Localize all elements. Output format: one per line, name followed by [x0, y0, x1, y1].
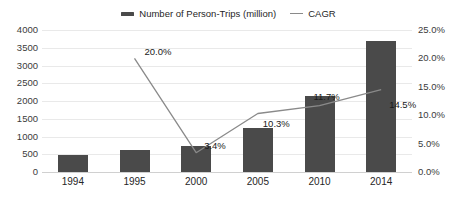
legend-item-person-trips: Number of Person-Trips (million)	[121, 9, 276, 19]
right-axis-tick: 25.0%	[418, 25, 445, 35]
right-axis-tick: 15.0%	[418, 82, 445, 92]
chart-legend: Number of Person-Trips (million) CAGR	[0, 9, 457, 19]
left-axis-tick: 2000	[17, 96, 38, 106]
cagr-line-series	[42, 30, 412, 172]
right-axis-tick: 20.0%	[418, 54, 445, 64]
left-axis-tick: 4000	[17, 25, 38, 35]
combo-chart: Number of Person-Trips (million) CAGR 05…	[0, 0, 457, 204]
category-tick: 2014	[370, 177, 392, 187]
cagr-point-label: 3.4%	[204, 141, 226, 151]
legend-label-cagr: CAGR	[308, 9, 335, 19]
cagr-polyline	[135, 58, 382, 152]
gridline	[42, 172, 412, 173]
right-axis-tick: 5.0%	[418, 139, 440, 149]
left-axis-tick: 2500	[17, 79, 38, 89]
left-axis-tick: 1000	[17, 132, 38, 142]
category-tick: 1994	[62, 177, 84, 187]
category-tick: 1995	[123, 177, 145, 187]
line-series-swatch-icon	[290, 13, 303, 14]
left-axis-tick: 3500	[17, 43, 38, 53]
right-axis-tick: 0.0%	[418, 167, 440, 177]
left-axis-tick: 1500	[17, 114, 38, 124]
cagr-point-label: 10.3%	[263, 119, 290, 129]
legend-item-cagr: CAGR	[290, 9, 335, 19]
right-axis-tick: 10.0%	[418, 110, 445, 120]
left-axis-tick: 500	[22, 150, 38, 160]
cagr-point-label: 11.7%	[314, 92, 340, 102]
category-tick: 2005	[247, 177, 269, 187]
cagr-point-label: 14.5%	[389, 100, 416, 110]
left-axis-tick: 3000	[17, 61, 38, 71]
bar-series-swatch-icon	[121, 12, 134, 16]
category-tick: 2010	[308, 177, 330, 187]
category-tick: 2000	[185, 177, 207, 187]
legend-label-person-trips: Number of Person-Trips (million)	[139, 9, 276, 19]
plot-area: 20.0%3.4%10.3%11.7%14.5%	[42, 30, 412, 172]
cagr-point-label: 20.0%	[145, 47, 172, 57]
left-axis-tick: 0	[33, 167, 38, 177]
